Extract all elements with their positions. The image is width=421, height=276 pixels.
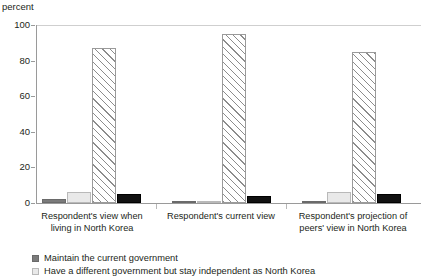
category-label-line: Respondent's projection of — [287, 211, 419, 223]
bar-g1-s1[interactable] — [197, 201, 221, 203]
category-label-1: Respondent's current view — [157, 211, 285, 223]
legend-swatch-icon — [32, 268, 39, 275]
bar-g2-s1[interactable] — [327, 192, 351, 203]
legend-item-maintain-current-government[interactable]: Maintain the current government — [32, 252, 421, 265]
y-tick-mark — [31, 203, 35, 204]
category-label-0: Respondent's view when living in North K… — [28, 211, 156, 234]
bars-layer — [0, 0, 421, 203]
legend-item-label: Have a different government but stay ind… — [44, 265, 315, 276]
legend-item-different-government-independent[interactable]: Have a different government but stay ind… — [32, 265, 421, 276]
bar-g1-s0[interactable] — [172, 201, 196, 203]
category-label-line: peers' view in North Korea — [287, 223, 419, 235]
bar-g2-s2[interactable] — [352, 52, 376, 203]
legend-swatch-icon — [32, 255, 39, 262]
chart-legend: Maintain the current government Have a d… — [32, 252, 421, 276]
bar-g0-s3[interactable] — [117, 194, 141, 203]
chart-plot-area: 0 20 40 60 80 100 — [0, 0, 421, 215]
category-label-line: living in North Korea — [28, 223, 156, 235]
group-divider — [286, 204, 287, 209]
bar-g0-s1[interactable] — [67, 192, 91, 203]
bar-g1-s2[interactable] — [222, 34, 246, 203]
legend-item-label: Maintain the current government — [44, 252, 178, 264]
category-label-2: Respondent's projection of peers' view i… — [287, 211, 419, 234]
category-label-line: Respondent's view when — [28, 211, 156, 223]
group-divider — [156, 204, 157, 209]
bar-g1-s3[interactable] — [247, 196, 271, 203]
category-label-line: Respondent's current view — [157, 211, 285, 223]
bar-g2-s3[interactable] — [377, 194, 401, 203]
bar-g0-s2[interactable] — [92, 48, 116, 203]
x-axis-line — [36, 203, 421, 204]
bar-g0-s0[interactable] — [42, 199, 66, 203]
bar-g2-s0[interactable] — [302, 201, 326, 203]
